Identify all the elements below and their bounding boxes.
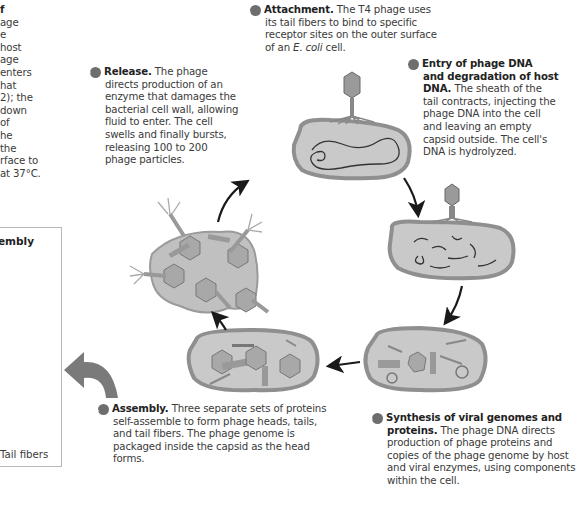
cell-assembly <box>189 330 318 390</box>
step-3-line: copies of the phage genome by host <box>387 450 569 461</box>
step-2-line: tail contracts, injecting the <box>423 96 556 107</box>
step-3-line: and viral enzymes, using components <box>387 462 575 473</box>
step-2-title: DNA. <box>423 83 451 94</box>
cell-attachment <box>294 120 410 179</box>
intro-line: down <box>0 105 70 118</box>
panel-title: embly <box>0 235 34 247</box>
step-5-line: releasing 100 to 200 <box>105 142 207 153</box>
step-4-assembly: 4Assembly. Three separate sets of protei… <box>98 403 328 466</box>
step-2-title: and degradation of host <box>423 71 558 82</box>
assembly-panel: embly Tail fibers <box>0 227 62 467</box>
intro-line: at 37°C. <box>0 168 70 181</box>
step-1-attachment: 1Attachment. The T4 phage uses its tail … <box>250 4 465 54</box>
step-4-line: and tail fibers. The phage genome is <box>113 428 295 439</box>
intro-line: f <box>0 4 70 17</box>
step-5-line: The phage <box>155 66 208 77</box>
step-5-line: enzyme that damages the <box>105 91 236 102</box>
phage-attached <box>330 72 374 124</box>
step-3-badge-icon: 3 <box>372 413 383 424</box>
step-5-line: phage particles. <box>105 154 185 165</box>
step-4-line: Three separate sets of proteins <box>172 403 327 414</box>
step-5-badge-icon: 5 <box>90 67 101 78</box>
step-3-title: proteins. <box>387 425 437 436</box>
step-3-line: The phage DNA directs <box>441 425 555 436</box>
step-2-title: Entry of phage DNA <box>422 58 533 69</box>
intro-line: e <box>0 29 70 42</box>
step-4-line: forms. <box>113 453 144 464</box>
big-arrow-to-panel <box>64 352 118 398</box>
intro-line: enters <box>0 67 70 80</box>
intro-text: f age e host age enters hat 2); the down… <box>0 4 70 180</box>
step-4-title: Assembly. <box>112 403 169 414</box>
step-4-line: self-assemble to form phage heads, tails… <box>113 416 317 427</box>
step-5-line: swells and finally bursts, <box>105 129 227 140</box>
step-1-line: its tail fibers to bind to specific <box>265 17 417 28</box>
step-3-line: within the cell. <box>387 475 459 486</box>
intro-line: host <box>0 42 70 55</box>
step-2-line: DNA is hydrolyzed. <box>423 146 517 157</box>
e-coli-italic: E. coli <box>293 42 322 53</box>
step-1-line: of an <box>265 42 293 53</box>
step-1-line: receptor sites on the outer surface <box>265 29 437 40</box>
phage-injecting <box>432 184 472 223</box>
step-2-line: and leaving an empty <box>423 121 531 132</box>
step-2-badge-icon: 2 <box>408 59 419 70</box>
step-3-synthesis: 3Synthesis of viral genomes and proteins… <box>372 412 580 488</box>
step-2-line: capsid outside. The cell's <box>423 134 547 145</box>
step-1-badge-icon: 1 <box>250 5 261 16</box>
intro-line: rface to <box>0 155 70 168</box>
arrow-assembly-to-release <box>214 314 226 330</box>
intro-line: age <box>0 54 70 67</box>
step-3-line: production of phage proteins and <box>387 437 552 448</box>
step-4-line: packaged inside the capsid as the head <box>113 441 310 452</box>
arrow-entry-to-synthesis <box>446 286 462 322</box>
step-2-line: The sheath of the <box>454 83 541 94</box>
arrow-synthesis-to-assembly <box>330 362 360 366</box>
arrow-attach-to-entry <box>404 178 418 214</box>
intro-line: 2); the <box>0 92 70 105</box>
intro-line: the <box>0 143 70 156</box>
panel-caption-tail-fibers: Tail fibers <box>0 449 48 460</box>
step-5-line: directs production of an <box>105 79 223 90</box>
step-1-line: cell. <box>322 42 345 53</box>
step-1-line: The T4 phage uses <box>337 4 431 15</box>
step-2-line: phage DNA into the cell <box>423 108 541 119</box>
arrow-release-to-attach <box>218 182 246 222</box>
step-4-badge-icon: 4 <box>98 404 109 415</box>
intro-line: he <box>0 130 70 143</box>
intro-line: hat <box>0 80 70 93</box>
intro-line: of <box>0 117 70 130</box>
step-3-title: Synthesis of viral genomes and <box>386 412 562 423</box>
step-5-line: bacterial cell wall, allowing <box>105 104 238 115</box>
step-5-line: fluid to enter. The cell <box>105 116 213 127</box>
intro-line: age <box>0 17 70 30</box>
step-5-release: 5Release. The phage directs production o… <box>90 66 255 167</box>
cell-synthesis <box>365 328 485 390</box>
step-2-entry: 2Entry of phage DNA and degradation of h… <box>408 58 580 159</box>
cell-release <box>130 198 268 313</box>
step-5-title: Release. <box>104 66 152 77</box>
cell-entry <box>390 222 514 279</box>
step-1-title: Attachment. <box>264 4 334 15</box>
